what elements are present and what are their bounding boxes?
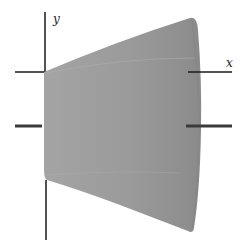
figure-canvas [0,0,251,250]
solid-of-revolution-figure: y x [0,0,251,250]
x-axis-label: x [226,57,233,69]
y-axis-label: y [53,13,60,25]
solid-body [44,18,201,232]
